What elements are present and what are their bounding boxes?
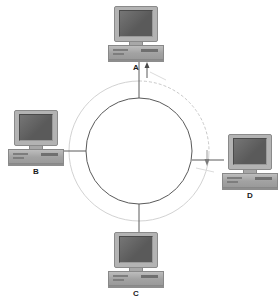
system-unit-a [108, 45, 164, 60]
drive-slot-icon [13, 157, 24, 159]
system-unit-b [8, 149, 64, 164]
system-unit-d [222, 173, 278, 188]
monitor-screen-a [119, 10, 153, 37]
node-label-c: C [108, 288, 164, 299]
drive-slot-icon [113, 49, 128, 51]
drive-bay-icon [141, 49, 158, 52]
workstation-d[interactable]: D [222, 134, 278, 201]
signal-ring [86, 98, 192, 204]
monitor-screen-c [119, 236, 153, 263]
drive-bay-icon [255, 177, 272, 180]
monitor-c [114, 232, 158, 268]
monitor-screen-d [233, 138, 267, 165]
ring-topology-diagram: A B C [0, 0, 279, 301]
drive-slot-icon [13, 153, 28, 155]
node-label-d: D [222, 190, 278, 201]
workstation-b[interactable]: B [8, 110, 64, 177]
node-label-a: A [108, 62, 164, 73]
drive-bay-icon [41, 153, 58, 156]
token-flow-arc-top-right [139, 81, 209, 151]
monitor-a [114, 6, 158, 42]
drive-slot-icon [227, 181, 238, 183]
workstation-a[interactable]: A [108, 6, 164, 73]
token-flow-arc-bottom-right [139, 151, 209, 221]
workstation-c[interactable]: C [108, 232, 164, 299]
drive-slot-icon [227, 177, 242, 179]
flow-guide-right [196, 168, 214, 172]
token-flow-arc-bottom-left [69, 151, 139, 221]
drive-bay-icon [141, 275, 158, 278]
node-label-b: B [8, 166, 64, 177]
drive-slot-icon [113, 53, 124, 55]
drive-slot-icon [113, 275, 128, 277]
monitor-d [228, 134, 272, 170]
monitor-screen-b [19, 114, 53, 141]
drive-slot-icon [113, 279, 124, 281]
system-unit-c [108, 271, 164, 286]
token-flow-arc-top-left [69, 81, 139, 151]
flow-guide-top [150, 72, 166, 80]
monitor-b [14, 110, 58, 146]
token-flow-ring [69, 81, 209, 221]
